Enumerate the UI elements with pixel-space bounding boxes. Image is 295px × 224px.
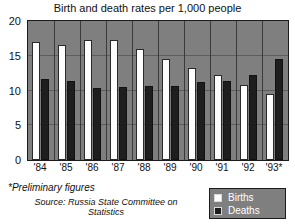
legend-label-births: Births xyxy=(228,192,254,203)
bar-deaths xyxy=(171,86,179,160)
x-tick-label: '85 xyxy=(59,162,72,174)
footnote-source: Source: Russia State Committee on Statis… xyxy=(26,197,186,217)
bar-group xyxy=(262,21,288,160)
chart-figure: Birth and death rates per 1,000 people 0… xyxy=(0,0,295,224)
chart-title: Birth and death rates per 1,000 people xyxy=(0,1,295,15)
y-tick-label: 15 xyxy=(9,50,21,61)
footnote-preliminary: *Preliminary figures xyxy=(8,182,95,194)
bar-deaths xyxy=(119,87,127,160)
bar-group xyxy=(54,21,80,160)
legend-swatch-births-icon xyxy=(214,194,222,202)
bar-deaths xyxy=(197,82,205,160)
y-tick-label: 5 xyxy=(15,120,21,131)
bar-group xyxy=(184,21,210,160)
plot-area xyxy=(27,20,289,161)
legend-swatch-deaths-icon xyxy=(214,207,222,215)
bar-deaths xyxy=(145,86,153,160)
bar-group xyxy=(210,21,236,160)
x-tick-label: '88 xyxy=(137,162,150,174)
x-tick-label: '91 xyxy=(215,162,228,174)
bar-deaths xyxy=(93,88,101,160)
bar-deaths xyxy=(249,75,257,160)
x-tick-label: '86 xyxy=(85,162,98,174)
bar-births xyxy=(162,59,170,160)
bar-deaths xyxy=(223,81,231,160)
x-tick-label: '84 xyxy=(33,162,46,174)
bar-group xyxy=(236,21,262,160)
y-tick-label: 10 xyxy=(9,85,21,96)
legend-label-deaths: Deaths xyxy=(228,205,260,216)
bar-group xyxy=(28,21,54,160)
bar-group xyxy=(132,21,158,160)
bar-births xyxy=(266,94,274,160)
bar-births xyxy=(32,42,40,160)
bar-group xyxy=(80,21,106,160)
bar-births xyxy=(110,40,118,160)
x-tick-label: '87 xyxy=(111,162,124,174)
bar-births xyxy=(58,45,66,160)
bar-births xyxy=(214,75,222,160)
bar-births xyxy=(84,40,92,160)
bar-births xyxy=(240,85,248,160)
bar-deaths xyxy=(41,79,49,160)
x-tick-label: '90 xyxy=(189,162,202,174)
y-axis: 05101520 xyxy=(0,20,24,161)
bar-deaths xyxy=(67,81,75,160)
chart-legend: Births Deaths xyxy=(209,188,286,219)
bar-deaths xyxy=(275,59,283,160)
bar-group xyxy=(106,21,132,160)
y-tick-label: 20 xyxy=(9,16,21,27)
x-tick-label: '89 xyxy=(163,162,176,174)
x-tick-label: '93* xyxy=(266,162,283,174)
bar-group xyxy=(158,21,184,160)
legend-item-births: Births xyxy=(214,191,285,204)
x-tick-label: '92 xyxy=(241,162,254,174)
y-tick-label: 0 xyxy=(15,155,21,166)
bar-births xyxy=(136,49,144,160)
bar-births xyxy=(188,68,196,160)
legend-item-deaths: Deaths xyxy=(214,204,285,217)
x-axis: '84'85'86'87'88'89'90'91'92'93* xyxy=(27,162,289,176)
